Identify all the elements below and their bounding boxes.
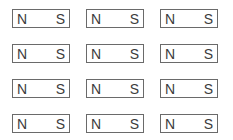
south-pole-label: S: [204, 46, 213, 62]
bar-magnet: NS: [86, 44, 144, 63]
north-pole-label: N: [17, 116, 27, 132]
bar-magnet: NS: [86, 9, 144, 28]
north-pole-label: N: [165, 116, 175, 132]
bar-magnet: NS: [86, 114, 144, 133]
south-pole-label: S: [204, 11, 213, 27]
south-pole-label: S: [56, 116, 65, 132]
south-pole-label: S: [204, 81, 213, 97]
bar-magnet: NS: [12, 44, 70, 63]
north-pole-label: N: [165, 11, 175, 27]
north-pole-label: N: [91, 81, 101, 97]
north-pole-label: N: [17, 11, 27, 27]
bar-magnet: NS: [12, 79, 70, 98]
bar-magnet: NS: [160, 9, 218, 28]
bar-magnet: NS: [160, 44, 218, 63]
bar-magnet: NS: [86, 79, 144, 98]
north-pole-label: N: [17, 81, 27, 97]
bar-magnet: NS: [160, 79, 218, 98]
south-pole-label: S: [130, 46, 139, 62]
south-pole-label: S: [204, 116, 213, 132]
bar-magnet: NS: [160, 114, 218, 133]
south-pole-label: S: [56, 81, 65, 97]
south-pole-label: S: [130, 116, 139, 132]
north-pole-label: N: [17, 46, 27, 62]
bar-magnet: NS: [12, 114, 70, 133]
north-pole-label: N: [91, 46, 101, 62]
south-pole-label: S: [56, 46, 65, 62]
north-pole-label: N: [91, 11, 101, 27]
south-pole-label: S: [130, 81, 139, 97]
north-pole-label: N: [165, 81, 175, 97]
north-pole-label: N: [165, 46, 175, 62]
north-pole-label: N: [91, 116, 101, 132]
south-pole-label: S: [130, 11, 139, 27]
south-pole-label: S: [56, 11, 65, 27]
bar-magnet: NS: [12, 9, 70, 28]
